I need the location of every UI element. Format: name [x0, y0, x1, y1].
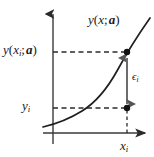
regression-residual-figure: y(x; a) y(xi; a) yi ϵi xi [0, 0, 154, 157]
residual-label: ϵi [132, 71, 139, 84]
x-value-label: xi [120, 139, 128, 154]
data-value-label: yi [22, 99, 30, 114]
residual-sub: i [136, 75, 138, 84]
x-value-sub: i [126, 144, 128, 154]
data-point-marker [124, 105, 130, 111]
model-value-semi: ; [21, 42, 25, 57]
model-point-marker [124, 49, 130, 55]
model-value-close: ) [33, 42, 37, 57]
model-value-label: y(xi; a) [3, 43, 37, 58]
figure-canvas [0, 0, 154, 157]
curve-label-close: ) [115, 12, 119, 27]
data-value-sub: i [28, 104, 30, 114]
curve-label-semi: ; [104, 12, 108, 27]
curve-label: y(x; a) [88, 13, 119, 26]
